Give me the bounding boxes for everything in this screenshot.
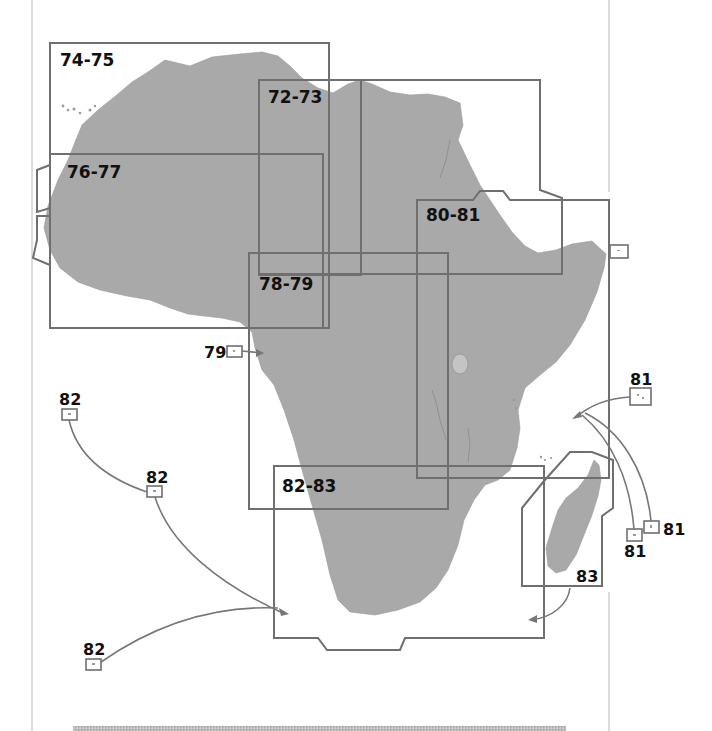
madagascar-landmass bbox=[546, 460, 601, 573]
inset-label-81-c[interactable]: 81 bbox=[624, 542, 646, 561]
inset-label-82-c[interactable]: 82 bbox=[83, 640, 105, 659]
region-label-72-73[interactable]: 72-73 bbox=[268, 87, 322, 107]
inset-box-east[interactable] bbox=[610, 245, 628, 258]
inset-label-83[interactable]: 83 bbox=[576, 567, 598, 586]
footer-bar bbox=[73, 726, 566, 731]
inset-label-81-a[interactable]: 81 bbox=[630, 370, 652, 389]
region-label-76-77[interactable]: 76-77 bbox=[67, 162, 121, 182]
region-label-78-79[interactable]: 78-79 bbox=[259, 274, 313, 294]
inset-label-82-b[interactable]: 82 bbox=[146, 468, 168, 487]
lake-victoria bbox=[452, 354, 468, 374]
inset-label-79[interactable]: 79 bbox=[204, 343, 226, 362]
inset-label-81-b[interactable]: 81 bbox=[663, 520, 685, 539]
region-label-80-81[interactable]: 80-81 bbox=[426, 205, 480, 225]
canary-islands bbox=[62, 105, 97, 115]
inset-box-81-a[interactable] bbox=[630, 388, 651, 405]
region-label-74-75[interactable]: 74-75 bbox=[60, 50, 114, 70]
region-label-82-83[interactable]: 82-83 bbox=[282, 476, 336, 496]
africa-map-index: 74-75 72-73 76-77 80-81 78-79 82-83 79 8… bbox=[0, 0, 712, 731]
inset-label-82-a[interactable]: 82 bbox=[59, 390, 81, 409]
